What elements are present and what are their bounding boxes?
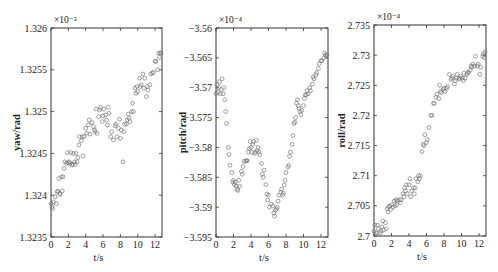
data-point	[60, 189, 64, 193]
y-tick-label: −3.58	[189, 142, 212, 153]
y-tick-label: 2.705	[348, 200, 371, 211]
data-point	[230, 171, 234, 175]
pitch-markers	[214, 51, 329, 218]
data-point	[106, 123, 110, 127]
y-tick-label: 1.3235	[20, 232, 48, 243]
data-point	[276, 199, 280, 203]
data-point	[143, 76, 147, 80]
x-tick-label: 10	[299, 239, 309, 250]
x-tick-label: 4	[407, 238, 412, 249]
data-point	[100, 120, 104, 124]
data-point	[141, 72, 145, 76]
data-point	[438, 83, 442, 87]
exponent-label: ×10⁻⁴	[377, 12, 401, 22]
data-point	[289, 150, 293, 154]
data-point	[226, 146, 230, 150]
data-point	[110, 130, 114, 134]
data-point	[427, 126, 431, 130]
x-tick-label: 0	[372, 238, 377, 249]
data-point	[258, 153, 262, 157]
data-point	[262, 168, 266, 172]
y-tick-label: 2.71	[353, 170, 371, 181]
data-point	[236, 189, 240, 193]
data-point	[241, 165, 245, 169]
y-tick-label: −3.595	[184, 232, 212, 243]
data-point	[86, 123, 90, 127]
y-tick-label: 2.735	[348, 20, 371, 31]
x-tick-label: 4	[249, 239, 254, 250]
data-point	[80, 139, 84, 143]
data-point	[225, 122, 229, 126]
x-tick-label: 2	[231, 239, 236, 250]
data-point	[296, 98, 300, 102]
data-point	[317, 67, 321, 71]
data-point	[479, 65, 483, 69]
data-point	[420, 150, 424, 154]
data-point	[121, 160, 125, 164]
x-tick-label: 6	[424, 238, 429, 249]
x-tick-label: 12	[316, 239, 326, 250]
x-tick-label: 2	[389, 238, 394, 249]
figure: 0246810121.32351.3241.32451.3251.32551.3…	[0, 0, 498, 272]
data-point	[109, 135, 113, 139]
x-axis-label: t/s	[417, 251, 427, 262]
data-point	[290, 143, 294, 147]
data-point	[264, 183, 268, 187]
data-point	[376, 223, 380, 227]
data-point	[53, 195, 57, 199]
data-point	[453, 82, 457, 86]
y-tick-label: −3.56	[189, 23, 212, 34]
y-tick-label: 1.326	[25, 23, 48, 34]
data-point	[97, 115, 101, 119]
y-axis-label: pitch/rad	[177, 112, 188, 154]
data-point	[227, 153, 231, 157]
x-tick-label: 4	[83, 239, 88, 250]
y-tick-label: 2.715	[348, 140, 371, 151]
x-tick-label: 12	[474, 238, 484, 249]
x-tick-label: 0	[214, 239, 219, 250]
data-point	[303, 97, 307, 101]
y-tick-label: 1.324	[25, 190, 48, 201]
data-point	[84, 126, 88, 130]
y-tick-label: −3.575	[184, 112, 212, 123]
data-point	[138, 76, 142, 80]
data-point	[131, 101, 135, 105]
data-point	[98, 108, 102, 112]
data-point	[266, 198, 270, 202]
data-point	[105, 118, 109, 122]
data-point	[118, 117, 122, 121]
data-point	[220, 77, 224, 81]
x-tick-label: 10	[457, 238, 467, 249]
data-point	[310, 82, 314, 86]
data-point	[405, 192, 409, 196]
y-tick-label: −3.585	[184, 172, 212, 183]
yaw-markers	[49, 51, 163, 210]
data-point	[291, 134, 295, 138]
y-tick-label: 1.3255	[20, 64, 48, 75]
data-point	[223, 98, 227, 102]
data-point	[283, 178, 287, 182]
data-point	[119, 137, 123, 141]
data-point	[112, 138, 116, 142]
data-point	[88, 132, 92, 136]
x-tick-label: 0	[49, 239, 54, 250]
roll-subplot: 0246810122.72.7052.712.7152.722.7252.732…	[336, 12, 487, 262]
y-tick-label: 2.725	[348, 80, 371, 91]
y-tick-label: 2.73	[353, 50, 371, 61]
data-point	[409, 195, 413, 199]
data-point	[145, 95, 149, 99]
x-tick-label: 8	[118, 239, 123, 250]
data-point	[102, 107, 106, 111]
data-point	[62, 167, 66, 171]
pitch-subplot: 024681012−3.595−3.59−3.585−3.58−3.575−3.…	[177, 15, 329, 263]
data-point	[260, 162, 264, 166]
data-point	[293, 120, 297, 124]
x-axis-label: t/s	[94, 252, 104, 263]
data-point	[288, 155, 292, 159]
data-point	[237, 178, 241, 182]
y-tick-label: −3.59	[189, 202, 212, 213]
y-tick-label: 2.72	[353, 110, 371, 121]
data-point	[284, 171, 288, 175]
data-point	[478, 73, 482, 77]
exponent-label: ×10⁻⁴	[219, 15, 243, 25]
